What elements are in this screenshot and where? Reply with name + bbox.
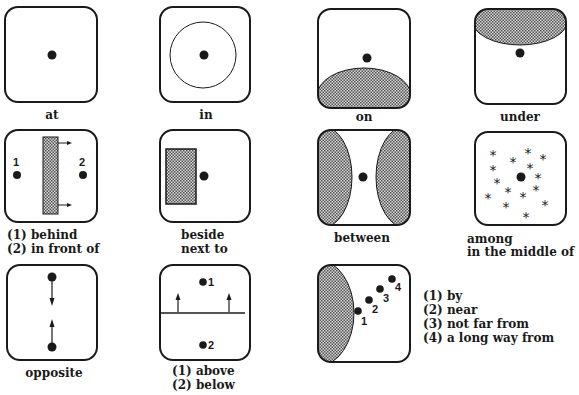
arrowhead-icon xyxy=(50,298,55,306)
label-by: (1) by xyxy=(423,289,462,303)
marker-2: 2 xyxy=(79,155,85,169)
dot-icon xyxy=(200,51,209,60)
arrowhead-icon xyxy=(227,293,232,300)
marker-2: 2 xyxy=(372,303,378,315)
left-shape xyxy=(292,126,352,228)
dot-icon xyxy=(13,171,21,179)
dot-icon xyxy=(79,171,87,179)
label-on: on xyxy=(356,110,373,124)
label-above: (1) above xyxy=(172,364,235,378)
surface-shape xyxy=(472,0,568,45)
asterisk-icon: * xyxy=(490,147,497,163)
label-next-to: next to xyxy=(181,242,228,256)
panel-among: *************** xyxy=(475,132,566,225)
right-shape xyxy=(376,126,436,228)
marker-1: 1 xyxy=(361,315,367,327)
panel-beside xyxy=(160,130,250,222)
dot-icon xyxy=(199,341,207,349)
panel-at xyxy=(5,7,97,102)
panel-above-below: 1 2 xyxy=(159,265,250,360)
asterisk-icon: * xyxy=(494,175,501,191)
panel-behind-front xyxy=(5,130,97,222)
panel-in xyxy=(160,7,250,102)
label-opposite: opposite xyxy=(25,366,82,380)
marker-1: 1 xyxy=(208,276,214,288)
label-in-front-of: (2) in front of xyxy=(7,242,99,256)
asterisk-icon: * xyxy=(527,160,534,176)
label-near: (2) near xyxy=(423,303,477,317)
dot-icon xyxy=(363,54,372,63)
asterisk-group: *************** xyxy=(485,145,549,225)
marker-2: 2 xyxy=(208,339,214,351)
asterisk-icon: * xyxy=(505,184,512,200)
arrowhead-icon xyxy=(67,203,72,207)
asterisk-icon: * xyxy=(485,190,492,206)
label-a-long-way-from: (4) a long way from xyxy=(423,331,554,345)
asterisk-icon: * xyxy=(533,182,540,198)
asterisk-icon: * xyxy=(520,189,527,205)
panel-opposite xyxy=(7,265,97,360)
label-beside: beside xyxy=(181,228,224,242)
asterisk-icon: * xyxy=(542,197,549,213)
arrowhead-icon xyxy=(67,141,72,145)
marker-3: 3 xyxy=(383,292,389,304)
dot-icon xyxy=(516,49,525,58)
label-at: at xyxy=(45,108,58,122)
arrowhead-icon xyxy=(50,319,55,327)
asterisk-icon: * xyxy=(503,199,510,215)
panel-under xyxy=(472,0,568,104)
label-between: between xyxy=(334,231,390,245)
label-in: in xyxy=(199,108,212,122)
panel-distance: 1 2 3 4 xyxy=(282,260,410,366)
label-below: (2) below xyxy=(172,378,235,392)
asterisk-icon: * xyxy=(510,154,517,170)
label-among: among xyxy=(467,232,513,246)
dot-icon xyxy=(517,173,526,182)
dot-icon xyxy=(354,307,362,315)
asterisk-icon: * xyxy=(540,151,547,167)
panel-between xyxy=(292,126,436,228)
arrowhead-icon xyxy=(176,293,181,300)
dot-icon xyxy=(199,278,207,286)
barrier-shape xyxy=(43,137,58,214)
dot-icon xyxy=(359,173,368,182)
label-in-the-middle-of: in the middle of xyxy=(467,245,574,259)
asterisk-icon: * xyxy=(525,145,532,161)
dot-icon xyxy=(48,51,57,60)
label-behind: (1) behind xyxy=(7,228,77,242)
object-shape xyxy=(166,149,196,204)
label-under: under xyxy=(500,110,540,124)
dot-icon xyxy=(200,172,209,181)
asterisk-icon: * xyxy=(523,209,530,225)
marker-4: 4 xyxy=(395,281,402,293)
panel-on xyxy=(317,9,411,124)
label-not-far-from: (3) not far from xyxy=(423,317,529,331)
marker-1: 1 xyxy=(13,155,19,169)
